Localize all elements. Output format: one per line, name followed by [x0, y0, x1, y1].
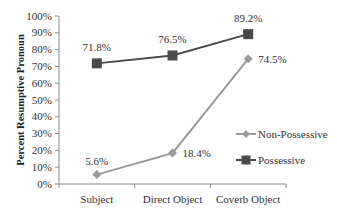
square-marker-icon: [242, 156, 251, 165]
diamond-marker-icon: [242, 130, 250, 138]
legend-item: Non-Possessive: [236, 128, 328, 140]
series-group: 5.6%18.4%74.5%71.8%76.5%89.2%: [83, 12, 287, 179]
y-tick-label: 40%: [32, 110, 52, 122]
data-label: 18.4%: [183, 147, 211, 159]
y-tick-label: 70%: [32, 60, 52, 72]
y-tick-label: 100%: [26, 10, 52, 22]
y-tick-label: 30%: [32, 127, 52, 139]
legend: Non-PossessivePossessive: [236, 128, 328, 166]
legend-label: Possessive: [258, 154, 305, 166]
y-tick-label: 50%: [32, 94, 52, 106]
y-tick-label: 20%: [32, 144, 52, 156]
square-marker-icon: [168, 50, 178, 60]
y-tick-label: 60%: [32, 77, 52, 89]
x-category-label: Direct Object: [143, 193, 203, 205]
y-tick-label: 10%: [32, 161, 52, 173]
y-tick-label: 80%: [32, 43, 52, 55]
square-marker-icon: [243, 29, 253, 39]
data-label: 76.5%: [158, 33, 186, 45]
x-axis: SubjectDirect ObjectCoverb Object: [59, 184, 286, 205]
data-label: 5.6%: [85, 155, 108, 167]
y-axis-title: Percent Resumptive Pronoun: [15, 34, 26, 166]
legend-label: Non-Possessive: [258, 128, 328, 140]
data-label: 89.2%: [234, 12, 262, 24]
diamond-marker-icon: [92, 170, 101, 179]
y-axis: 0%10%20%30%40%50%60%70%80%90%100%: [26, 10, 59, 190]
y-tick-label: 90%: [32, 26, 52, 38]
x-category-label: Coverb Object: [216, 193, 280, 205]
data-label: 74.5%: [258, 53, 286, 65]
legend-item: Possessive: [236, 154, 305, 166]
data-label: 71.8%: [83, 41, 111, 53]
x-category-label: Subject: [80, 193, 113, 205]
line-chart: 0%10%20%30%40%50%60%70%80%90%100% Subjec…: [0, 0, 337, 214]
series-non-possessive: 5.6%18.4%74.5%: [85, 53, 286, 179]
series-possessive: 71.8%76.5%89.2%: [83, 12, 263, 68]
square-marker-icon: [92, 58, 102, 68]
y-tick-label: 0%: [37, 178, 52, 190]
